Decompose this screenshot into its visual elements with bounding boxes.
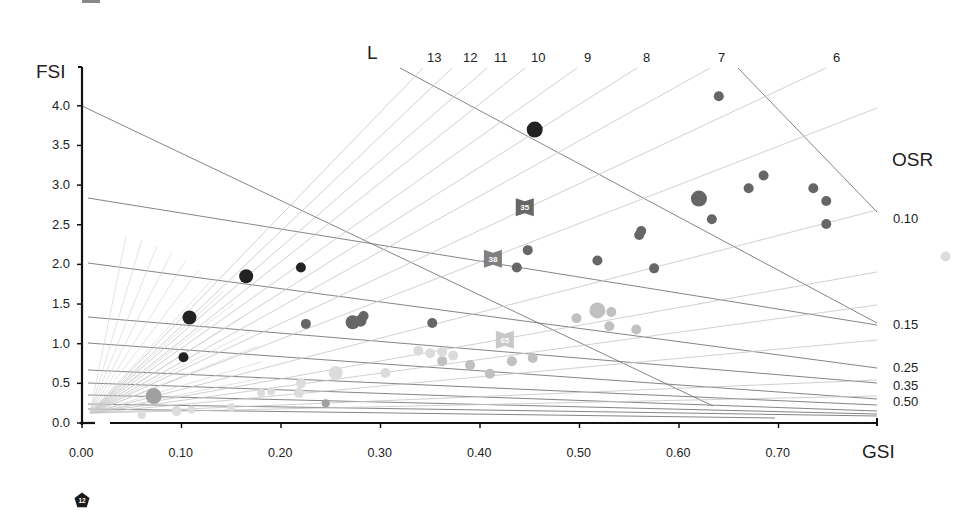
x-tick-label: 0.50: [567, 446, 591, 460]
data-point-light: [604, 321, 614, 331]
x-tick-label: 0.30: [368, 446, 392, 460]
data-point-very-light: [425, 348, 435, 358]
data-point-light: [631, 324, 641, 334]
l-line-label: 13: [427, 50, 441, 65]
data-point-mid-dark: [592, 255, 602, 265]
annotation-markers: 353865: [484, 198, 534, 348]
data-point-mid-dark: [359, 311, 369, 321]
data-point-very-light: [267, 387, 275, 395]
data-point-mid-dark: [512, 263, 522, 273]
data-point-mid: [146, 388, 162, 404]
data-point-very-light: [380, 368, 390, 378]
data-point-very-light: [172, 406, 182, 416]
y-tick-label: 3.0: [30, 177, 70, 192]
data-point-light: [465, 360, 475, 370]
annotation-65: 65: [496, 331, 514, 349]
data-point-very-light: [294, 388, 304, 398]
osr-reference-lines: [82, 68, 877, 418]
data-point-light: [437, 356, 447, 366]
x-tick-label: 0.20: [268, 446, 292, 460]
l-reference-lines: [90, 68, 877, 413]
y-tick-label: 1.5: [30, 296, 70, 311]
data-point-light: [589, 302, 605, 318]
annotation-38: 38: [484, 250, 502, 268]
y-axis-title: FSI: [36, 61, 66, 83]
data-point-mid-dark: [649, 263, 659, 273]
x-tick-label: 0.70: [766, 446, 790, 460]
y-tick-label: 3.5: [30, 137, 70, 152]
y-tick-label: 0.5: [30, 375, 70, 390]
data-point-light: [507, 356, 517, 366]
data-point-mid-dark: [714, 91, 724, 101]
l-lines-title: L: [367, 42, 378, 64]
data-point-mid-dark: [707, 214, 717, 224]
svg-text:65: 65: [500, 336, 509, 345]
data-point-dark: [527, 122, 543, 138]
data-points: [138, 91, 951, 419]
data-point-mid-dark: [691, 191, 707, 207]
osr-line-label: 0.15: [893, 317, 918, 332]
data-point-light: [528, 353, 538, 363]
data-point-mid-dark: [744, 183, 754, 193]
osr-lines-title: OSR: [892, 149, 933, 171]
l-line-label: 11: [494, 50, 508, 65]
x-tick-label: 0.00: [69, 446, 93, 460]
legend-marker-label: 12: [78, 497, 86, 504]
data-point-dark: [296, 263, 306, 273]
osr-line-label: 0.25: [893, 360, 918, 375]
data-point-very-light: [437, 347, 447, 357]
data-point-dark: [239, 269, 253, 283]
data-point-very-light: [187, 406, 195, 414]
l-line-label: 7: [718, 50, 725, 65]
data-point-very-light: [257, 389, 265, 397]
l-line-label: 8: [643, 50, 650, 65]
x-axis-title: GSI: [862, 441, 895, 463]
data-point-dark: [182, 311, 196, 325]
svg-text:35: 35: [520, 203, 529, 212]
osr-line-label: 0.10: [893, 211, 918, 226]
data-point-mid-dark: [808, 183, 818, 193]
l-line-label: 10: [531, 50, 545, 65]
y-tick-label: 1.0: [30, 336, 70, 351]
data-point-mid-dark: [821, 219, 831, 229]
data-point-dark: [178, 352, 188, 362]
y-tick-label: 2.5: [30, 217, 70, 232]
x-tick-label: 0.60: [666, 446, 690, 460]
data-point-light: [606, 307, 616, 317]
data-point-very-light: [296, 378, 306, 388]
data-point-mid-dark: [427, 318, 437, 328]
x-tick-label: 0.40: [467, 446, 491, 460]
data-point-mid-dark: [634, 230, 644, 240]
data-point-mid: [322, 399, 330, 407]
axes: [77, 67, 877, 428]
data-point-very-light: [329, 366, 343, 380]
l-line-label: 6: [833, 50, 840, 65]
data-point-mid-dark: [523, 245, 533, 255]
data-point-very-light: [413, 346, 423, 356]
osr-line-label: 0.50: [893, 394, 918, 409]
data-point-light: [572, 313, 582, 323]
osr-line-label: 0.35: [893, 378, 918, 393]
svg-text:38: 38: [488, 255, 497, 264]
l-line-label: 12: [463, 50, 477, 65]
y-tick-label: 4.0: [30, 98, 70, 113]
data-point-very-light: [227, 403, 235, 411]
y-tick-label: 2.0: [30, 256, 70, 271]
data-point-very-light: [941, 251, 951, 261]
data-point-mid-dark: [301, 319, 311, 329]
x-tick-label: 0.10: [169, 446, 193, 460]
legend-marker-pentagon: 12: [74, 492, 90, 508]
data-point-light: [485, 369, 495, 379]
annotation-35: 35: [516, 198, 534, 216]
spacematrix-chart: 353865: [0, 0, 980, 521]
data-point-very-light: [138, 411, 146, 419]
data-point-mid-dark: [821, 196, 831, 206]
data-point-mid-dark: [759, 171, 769, 181]
l-line-label: 9: [584, 50, 591, 65]
data-point-very-light: [448, 351, 458, 361]
y-tick-label: 0.0: [30, 415, 70, 430]
